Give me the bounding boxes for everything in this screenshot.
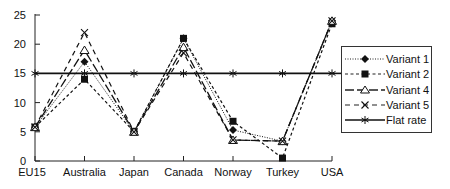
legend-item-variant-4: Variant 4	[342, 83, 431, 97]
y-tick-label: 20	[14, 38, 26, 50]
x-marker-icon	[81, 29, 88, 36]
diamond-marker-icon	[345, 52, 387, 66]
square-marker-icon	[345, 67, 387, 81]
x-tick-label: EU15	[18, 166, 46, 178]
chart-legend: Variant 1 Variant 2 Variant 4 Variant 5 …	[341, 46, 432, 133]
y-tick-label: 5	[20, 126, 26, 138]
x-tick-label: Norway	[214, 166, 252, 178]
triangle-marker-icon	[345, 83, 387, 97]
legend-item-variant-1: Variant 1	[342, 52, 431, 66]
legend-item-variant-2: Variant 2	[342, 67, 431, 81]
x-tick-label: Australia	[63, 166, 107, 178]
legend-label: Variant 5	[386, 98, 429, 112]
diamond-marker-icon	[81, 58, 89, 66]
legend-label: Variant 2	[386, 67, 429, 81]
y-tick-label: 25	[14, 9, 26, 21]
triangle-marker-icon	[80, 46, 89, 54]
x-tick-label: Japan	[119, 166, 149, 178]
square-marker-icon	[279, 155, 286, 162]
x-marker-icon	[345, 98, 387, 112]
legend-item-variant-5: Variant 5	[342, 98, 431, 112]
legend-item-flat-rate: Flat rate	[342, 113, 431, 127]
legend-label: Variant 1	[386, 52, 429, 66]
x-tick-label: USA	[321, 166, 344, 178]
legend-label: Flat rate	[386, 113, 426, 127]
square-marker-icon	[230, 118, 237, 125]
asterisk-marker-icon	[345, 113, 387, 127]
square-marker-icon	[81, 76, 88, 83]
x-tick-label: Turkey	[266, 166, 300, 178]
diamond-marker-icon	[229, 126, 237, 134]
x-tick-label: Canada	[164, 166, 203, 178]
y-tick-label: 10	[14, 97, 26, 109]
legend-label: Variant 4	[386, 83, 429, 97]
y-tick-label: 15	[14, 67, 26, 79]
